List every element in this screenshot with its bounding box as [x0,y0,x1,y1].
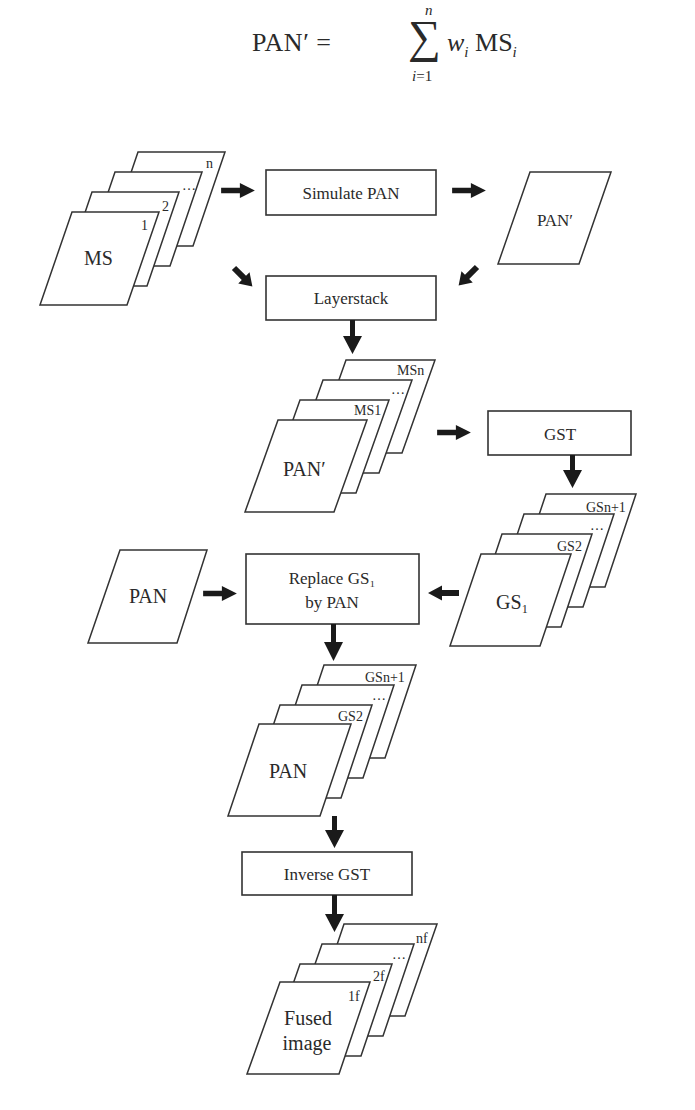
ms-stack: n … 2 1 MS [40,152,225,305]
arrow-down-icon [343,320,362,354]
gst-label: GST [544,425,577,444]
simulate-pan-box: Simulate PAN [266,170,436,215]
replace-line2: by PAN [305,593,359,612]
fused-layer-2f-label: 2f [373,969,385,984]
inverse-gst-label: Inverse GST [284,865,371,884]
arrow-down-icon [325,895,344,932]
arrow-diagonal-down-left-icon [453,261,483,291]
inverse-gst-box: Inverse GST [242,852,412,895]
gs-layer-2-label: GS2 [557,539,582,554]
fused-stack: nf … 2f 1f Fused image [247,924,437,1074]
ms-main-label: MS [84,247,113,269]
flowchart: n … 2 1 MS Simulate PAN PAN′ Layerstack … [0,0,695,1110]
arrow-right-icon [437,425,471,440]
layerstack-label: Layerstack [314,289,389,308]
layer-pan-prime-label: PAN′ [283,458,326,480]
layer-msn-label: MSn [397,363,424,378]
ms-layer-1-label: 1 [141,218,148,233]
replace-line1: Replace GS₁ [289,569,376,588]
rep-layer-2-label: GS2 [338,709,363,724]
gs-layer-dots-label: … [590,518,604,533]
pan-prime-label: PAN′ [537,211,573,230]
fused-layer-dots-label: … [392,947,406,962]
arrow-down-icon [563,455,582,488]
rep-layer-pan-label: PAN [269,760,307,782]
pan-label: PAN [129,585,167,607]
replace-gs1-box: Replace GS₁ by PAN [246,554,419,624]
arrow-left-icon [428,586,459,601]
replaced-stack: GSn+1 … GS2 PAN [228,665,416,816]
arrow-right-icon [452,183,486,198]
layer-dots-label: … [391,382,405,397]
pan-prime-image: PAN′ [498,172,611,264]
gs-layer-n1-label: GSn+1 [586,500,626,515]
arrow-down-icon [324,624,343,661]
pan-image: PAN [88,550,207,643]
fused-main-line2: image [283,1032,332,1055]
fused-layer-nf-label: nf [416,931,428,946]
ms-layer-dots-label: … [182,178,196,193]
ms-layer-2-label: 2 [162,199,169,214]
fused-main-line1: Fused [284,1007,332,1029]
layer-ms1-label: MS1 [354,403,381,418]
gs-stack: GSn+1 … GS2 GS₁ [450,494,636,646]
arrow-down-icon [325,816,344,848]
arrow-diagonal-down-right-icon [228,262,258,292]
layerstack-box: Layerstack [266,276,436,320]
gst-box: GST [488,411,631,455]
layerstack-output-stack: MSn … MS1 PAN′ [245,360,435,512]
arrow-right-icon [221,183,255,198]
rep-layer-n1-label: GSn+1 [365,670,405,685]
simulate-pan-label: Simulate PAN [302,184,399,203]
ms-layer-n-label: n [206,156,213,171]
gs-layer-1-label: GS₁ [496,591,529,613]
arrow-right-icon [203,586,237,601]
fused-layer-1f-label: 1f [348,989,360,1004]
rep-layer-dots-label: … [372,688,386,703]
